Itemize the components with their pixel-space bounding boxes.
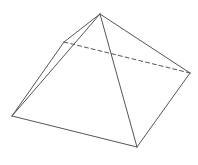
edge-left-front — [12, 116, 137, 147]
edge-apex-left — [12, 14, 100, 116]
edge-apex-back-left — [64, 14, 100, 42]
pyramid-diagram — [0, 0, 198, 165]
edge-apex-front — [100, 14, 137, 147]
edge-back-left-left — [12, 42, 64, 116]
edge-front-right — [137, 73, 190, 147]
edge-back-left-right — [64, 42, 190, 73]
pyramid-svg — [0, 0, 198, 165]
